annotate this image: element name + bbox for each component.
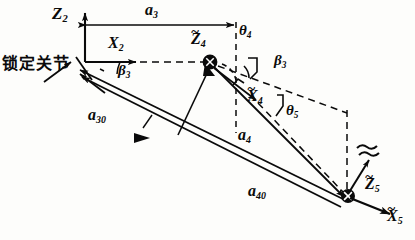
- kinematic-diagram-figure: 锁定关节 Z2 X2 a3 ~Z4 θ4 β3 β3 ~X4 θ5 a30 a4…: [0, 0, 415, 240]
- x4-tilde-label: ~X4: [247, 88, 263, 106]
- theta5-angle-arc: [276, 95, 283, 116]
- a30-vector: [80, 70, 345, 200]
- theta5-label: θ5: [286, 103, 298, 120]
- diagram-canvas: [0, 0, 415, 240]
- beta3-angle-arc-origin: [100, 62, 120, 74]
- z2-label: Z2: [52, 5, 68, 24]
- x5-tilde-axis: [350, 198, 390, 214]
- beta3-label-left: β3: [118, 63, 130, 80]
- x5-tilde-label: ~X5: [387, 208, 403, 226]
- theta4-label: θ4: [239, 23, 251, 40]
- a4-vector: [213, 66, 344, 197]
- beta3-label-right: β3: [274, 53, 286, 70]
- construction-dashed-lower: [258, 103, 344, 193]
- z4-tilde-label: ~Z4: [191, 31, 206, 49]
- x2-label: X2: [108, 35, 124, 53]
- joint4-marker: [203, 55, 216, 68]
- z5-tilde-label: ~Z5: [365, 176, 380, 194]
- joint5-marker: [341, 189, 355, 203]
- a30-label: a30: [88, 107, 106, 125]
- locked-joint-label: 锁定关节: [2, 55, 70, 73]
- a40-label: a40: [248, 183, 266, 201]
- joint4-vertical-drop: [178, 63, 215, 135]
- a3-label: a3: [145, 2, 158, 20]
- a4-label: a4: [238, 127, 251, 145]
